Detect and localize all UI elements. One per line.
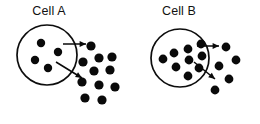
panel-b-external-molecule <box>215 62 224 71</box>
panel-a-internal-molecule <box>44 64 52 72</box>
panel-a-external-molecule <box>78 57 87 66</box>
panel-a-external-molecule <box>89 66 98 75</box>
panel-a-internal-molecule <box>31 56 39 64</box>
panel-a-external-molecule <box>97 95 106 104</box>
panel-b-label: Cell B <box>162 4 196 18</box>
panel-a-external-molecule <box>94 53 103 62</box>
panel-b-internal-molecule <box>198 52 207 61</box>
panel-b-external-molecule <box>225 75 234 84</box>
panel-b-internal-molecule <box>159 55 168 64</box>
panel-a-external-molecule <box>86 41 95 50</box>
panel-b-internal-molecule <box>184 45 193 54</box>
panel-b-external-molecule <box>222 43 231 52</box>
panel-b-external-molecule <box>232 56 241 65</box>
panel-b-internal-molecule <box>170 49 179 58</box>
panel-b-internal-molecule <box>185 56 194 65</box>
panel-a-external-molecule <box>80 93 89 102</box>
panel-a-external-molecule <box>107 52 116 61</box>
panel-a-external-molecule <box>77 77 86 86</box>
figure-canvas: Cell ACell B <box>0 0 260 124</box>
panel-a-label: Cell A <box>32 4 66 18</box>
panel-b-internal-molecule <box>172 63 181 72</box>
panel-a-external-molecule <box>94 80 103 89</box>
panel-a-internal-molecule <box>37 39 45 47</box>
panel-a-internal-molecule <box>54 48 62 56</box>
figure-background <box>0 0 260 124</box>
panel-b-internal-molecule <box>197 40 206 49</box>
panel-b-internal-molecule <box>184 72 193 81</box>
panel-b-external-molecule <box>211 86 220 95</box>
panel-a-external-molecule <box>105 65 114 74</box>
cell-secretion-figure: Cell ACell B <box>0 0 260 124</box>
panel-a-external-molecule <box>110 82 119 91</box>
